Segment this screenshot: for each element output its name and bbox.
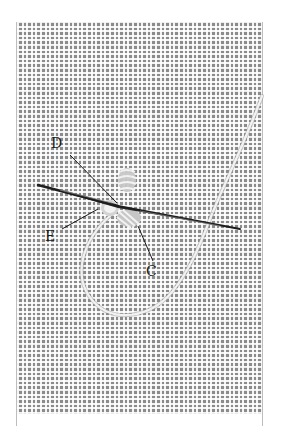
label-e: E bbox=[45, 229, 55, 243]
leader-line-e bbox=[62, 209, 98, 229]
thread-upper-highlight bbox=[212, 96, 262, 214]
lower-stitch bbox=[117, 209, 141, 228]
leader-line-c bbox=[138, 226, 153, 261]
upper-stitch bbox=[118, 168, 136, 192]
label-d: D bbox=[51, 136, 62, 150]
stitch-illustration bbox=[0, 0, 283, 426]
label-c: C bbox=[146, 264, 157, 278]
